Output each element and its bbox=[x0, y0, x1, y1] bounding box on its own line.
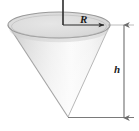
cone-figure: R h bbox=[0, 0, 139, 131]
radius-label: R bbox=[80, 14, 87, 25]
height-label: h bbox=[114, 64, 120, 75]
